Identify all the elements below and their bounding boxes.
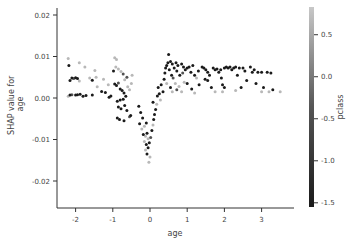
data-point bbox=[123, 119, 126, 122]
data-point bbox=[116, 100, 119, 103]
data-point bbox=[166, 61, 169, 64]
data-point bbox=[165, 64, 168, 67]
data-point bbox=[266, 71, 269, 74]
data-point bbox=[79, 93, 82, 96]
data-point bbox=[82, 95, 85, 98]
colorbar-tick-label: 0.5 bbox=[321, 31, 332, 39]
data-point bbox=[234, 65, 237, 68]
y-tick-label: -0.02 bbox=[32, 178, 50, 186]
data-point bbox=[117, 106, 120, 109]
data-point bbox=[206, 79, 209, 82]
data-point bbox=[165, 82, 168, 85]
data-point bbox=[210, 86, 213, 89]
data-point bbox=[70, 77, 73, 80]
data-point bbox=[146, 132, 149, 135]
data-point bbox=[173, 67, 176, 70]
data-point bbox=[145, 143, 148, 146]
data-point bbox=[243, 70, 246, 73]
data-point bbox=[123, 104, 126, 107]
data-point bbox=[152, 124, 155, 127]
data-point bbox=[186, 82, 189, 85]
shap-dependence-plot: 0.020.010.00-0.01-0.02 -2-10123 age SHAP… bbox=[0, 0, 354, 244]
data-point bbox=[168, 68, 171, 71]
data-point bbox=[268, 90, 271, 93]
data-point bbox=[138, 122, 141, 125]
data-point bbox=[198, 83, 201, 86]
data-point bbox=[220, 77, 223, 80]
data-point bbox=[158, 92, 161, 95]
data-point bbox=[193, 74, 196, 77]
data-point bbox=[157, 86, 160, 89]
data-point bbox=[167, 53, 170, 56]
data-point bbox=[214, 90, 217, 93]
x-tick-label: 1 bbox=[185, 216, 189, 224]
data-point bbox=[114, 65, 117, 68]
data-point bbox=[260, 90, 263, 93]
data-point bbox=[91, 94, 94, 97]
y-axis: 0.020.010.00-0.01-0.02 bbox=[32, 8, 57, 208]
data-point bbox=[148, 141, 151, 144]
data-point bbox=[137, 105, 140, 108]
data-point bbox=[190, 87, 193, 90]
data-point bbox=[180, 63, 183, 66]
data-point bbox=[242, 67, 245, 70]
data-point bbox=[147, 146, 150, 149]
data-point bbox=[189, 71, 192, 74]
data-point bbox=[143, 140, 146, 143]
x-tick-label: -1 bbox=[109, 216, 116, 224]
data-point bbox=[78, 61, 81, 64]
data-point bbox=[279, 90, 282, 93]
data-point bbox=[219, 68, 222, 71]
data-point bbox=[121, 89, 124, 92]
data-point bbox=[169, 86, 172, 89]
data-point bbox=[149, 155, 152, 158]
data-point bbox=[153, 113, 156, 116]
data-point bbox=[142, 133, 145, 136]
data-point bbox=[181, 72, 184, 75]
data-point bbox=[193, 92, 196, 95]
data-point bbox=[67, 64, 70, 67]
data-point bbox=[146, 153, 149, 156]
x-tick-label: 2 bbox=[222, 216, 226, 224]
data-point bbox=[140, 128, 143, 131]
data-point bbox=[163, 78, 166, 81]
data-point bbox=[144, 148, 147, 151]
data-point bbox=[104, 91, 107, 94]
data-point bbox=[120, 70, 123, 73]
data-point bbox=[260, 71, 263, 74]
data-point bbox=[176, 64, 179, 67]
data-point bbox=[152, 101, 155, 104]
data-point bbox=[204, 78, 207, 81]
data-point bbox=[221, 90, 224, 93]
data-point bbox=[118, 118, 121, 121]
data-point bbox=[131, 74, 134, 77]
data-point bbox=[123, 92, 126, 95]
data-point bbox=[163, 72, 166, 75]
data-point bbox=[100, 90, 103, 93]
y-axis-label-line1: SHAP value for bbox=[7, 75, 16, 135]
data-point bbox=[85, 94, 88, 97]
data-point bbox=[76, 77, 79, 80]
data-point bbox=[95, 76, 98, 79]
data-point bbox=[123, 78, 126, 81]
y-tick-label: 0.00 bbox=[34, 95, 50, 103]
data-point bbox=[256, 71, 259, 74]
data-point bbox=[96, 85, 99, 88]
data-point bbox=[122, 72, 125, 75]
data-point bbox=[183, 81, 186, 84]
data-point bbox=[130, 82, 133, 85]
data-point bbox=[180, 90, 183, 93]
y-tick-label: -0.01 bbox=[32, 136, 50, 144]
y-axis-label-line2: age bbox=[16, 96, 25, 111]
data-point bbox=[69, 94, 72, 97]
data-point bbox=[221, 83, 224, 86]
data-point bbox=[188, 65, 191, 68]
data-point bbox=[128, 88, 131, 91]
y-tick-label: 0.01 bbox=[34, 53, 50, 61]
data-point bbox=[175, 88, 178, 91]
data-point bbox=[175, 70, 178, 73]
data-point bbox=[102, 78, 105, 81]
x-tick-label: -2 bbox=[72, 216, 79, 224]
data-point bbox=[93, 69, 96, 72]
data-point bbox=[143, 125, 146, 128]
